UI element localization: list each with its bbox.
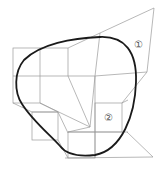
net-lines: [13, 8, 154, 158]
region-2-label: ②: [104, 113, 113, 123]
line: [68, 127, 90, 132]
diagram-figure: ① ②: [0, 0, 168, 170]
lower-left-box: [32, 112, 58, 140]
line: [13, 103, 58, 112]
line: [95, 33, 100, 76]
closed-curve: [16, 37, 136, 156]
line: [95, 72, 147, 76]
region-1-outline: [68, 8, 154, 103]
line: [68, 76, 90, 127]
line: [58, 112, 68, 133]
bottom-triangle: [65, 132, 153, 158]
line: [90, 76, 95, 127]
diagram-svg: [0, 0, 168, 170]
region-1-label: ①: [134, 40, 143, 50]
